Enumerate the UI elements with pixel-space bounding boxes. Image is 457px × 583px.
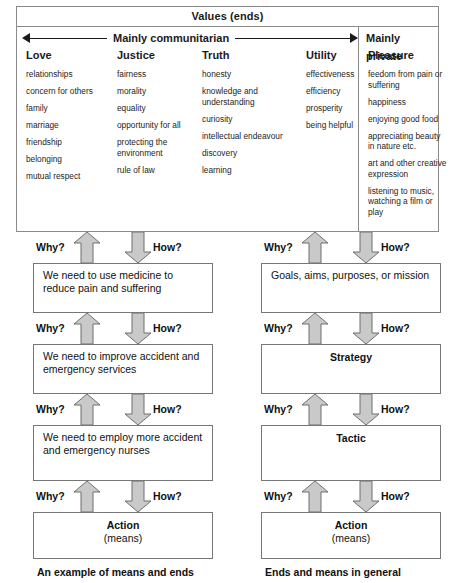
how-label: How?: [153, 313, 182, 344]
node-box-1: Goals, aims, purposes, or mission: [261, 263, 441, 313]
why-label: Why?: [36, 481, 65, 512]
column-heading-utility: Utility: [306, 49, 374, 61]
list-item: fairness: [117, 69, 199, 80]
connector-3: Why? How?: [20, 481, 232, 512]
list-item: feedom from pain or suffering: [368, 69, 448, 90]
list-item: enjoying good food: [368, 114, 448, 125]
list-item: discovery: [202, 148, 302, 159]
values-list-love: relationships concern for others family …: [26, 69, 111, 182]
values-column-pleasure: Pleasure feedom from pain or suffering h…: [368, 49, 448, 224]
right-chain: Why? How? Goals, aims, purposes, or miss…: [248, 232, 457, 583]
spectrum-arrow-label: Mainly communitarian: [107, 29, 235, 47]
list-item: knowledge and understanding: [202, 86, 302, 107]
how-label: How?: [153, 481, 182, 512]
connector-2: Why? How?: [248, 394, 457, 425]
list-item: appreciating beauty in nature etc.: [368, 131, 448, 152]
list-item: listening to music, watching a film or p…: [368, 186, 448, 218]
why-label: Why?: [264, 232, 293, 263]
action-title: Action: [271, 519, 431, 532]
list-item: protecting the environment: [117, 137, 199, 158]
list-item: curiosity: [202, 114, 302, 125]
list-item: prosperity: [306, 103, 374, 114]
list-item: marriage: [26, 120, 111, 131]
list-item: art and other creative expression: [368, 158, 448, 179]
column-heading-pleasure: Pleasure: [368, 49, 448, 61]
how-label: How?: [381, 394, 410, 425]
node-box-2: Strategy: [261, 344, 441, 394]
values-list-truth: honesty knowledge and understanding curi…: [202, 69, 302, 175]
node-box-action: Action (means): [33, 512, 213, 559]
list-item: being helpful: [306, 120, 374, 131]
list-item: happiness: [368, 97, 448, 108]
values-table-body: Mainly communitarian Mainly private Love…: [17, 27, 438, 232]
action-subtitle: (means): [271, 532, 431, 545]
list-item: relationships: [26, 69, 111, 80]
why-label: Why?: [36, 313, 65, 344]
list-item: belonging: [26, 154, 111, 165]
list-item: concern for others: [26, 86, 111, 97]
action-title: Action: [43, 519, 203, 532]
connector-2: Why? How?: [20, 394, 232, 425]
list-item: morality: [117, 86, 199, 97]
values-column-utility: Utility effectiveness efficiency prosper…: [306, 49, 374, 137]
means-ends-diagram: Why? How? We need to use medicine to red…: [0, 232, 457, 583]
list-item: honesty: [202, 69, 302, 80]
arrow-right-icon: [350, 33, 358, 43]
why-label: Why?: [36, 394, 65, 425]
why-label: Why?: [36, 232, 65, 263]
list-item: intellectual endeavour: [202, 131, 302, 142]
list-item: efficiency: [306, 86, 374, 97]
connector-3: Why? How?: [248, 481, 457, 512]
left-chain: Why? How? We need to use medicine to red…: [20, 232, 232, 583]
list-item: mutual respect: [26, 171, 111, 182]
why-label: Why?: [264, 313, 293, 344]
values-column-justice: Justice fairness morality equality oppor…: [117, 49, 199, 182]
how-label: How?: [153, 232, 182, 263]
how-label: How?: [381, 313, 410, 344]
values-table: Values (ends) Mainly communitarian Mainl…: [16, 6, 439, 232]
list-item: family: [26, 103, 111, 114]
node-box-3: Tactic: [261, 425, 441, 481]
how-label: How?: [381, 481, 410, 512]
list-item: learning: [202, 165, 302, 176]
caption-left: An example of means and ends: [37, 566, 194, 578]
connector-0: Why? How?: [20, 232, 232, 263]
list-item: opportunity for all: [117, 120, 199, 131]
node-box-3: We need to employ more accident and emer…: [33, 425, 213, 481]
caption-right: Ends and means in general: [265, 566, 401, 578]
node-box-2: We need to improve accident and emergenc…: [33, 344, 213, 394]
values-list-justice: fairness morality equality opportunity f…: [117, 69, 199, 175]
connector-1: Why? How?: [248, 313, 457, 344]
node-box-action: Action (means): [261, 512, 441, 559]
values-list-pleasure: feedom from pain or suffering happiness …: [368, 69, 448, 217]
spectrum-arrow: Mainly communitarian Mainly private: [17, 29, 438, 47]
why-label: Why?: [264, 481, 293, 512]
values-column-truth: Truth honesty knowledge and understandin…: [202, 49, 302, 182]
arrow-left-icon: [22, 33, 30, 43]
list-item: effectiveness: [306, 69, 374, 80]
values-table-title: Values (ends): [17, 7, 438, 27]
action-subtitle: (means): [43, 532, 203, 545]
why-label: Why?: [264, 394, 293, 425]
node-box-1: We need to use medicine to reduce pain a…: [33, 263, 213, 313]
values-list-utility: effectiveness efficiency prosperity bein…: [306, 69, 374, 131]
column-heading-justice: Justice: [117, 49, 199, 61]
values-columns: Love relationships concern for others fa…: [17, 49, 438, 232]
values-column-love: Love relationships concern for others fa…: [26, 49, 111, 188]
how-label: How?: [153, 394, 182, 425]
connector-1: Why? How?: [20, 313, 232, 344]
column-heading-love: Love: [26, 49, 111, 61]
column-heading-truth: Truth: [202, 49, 302, 61]
list-item: equality: [117, 103, 199, 114]
how-label: How?: [381, 232, 410, 263]
list-item: rule of law: [117, 165, 199, 176]
connector-0: Why? How?: [248, 232, 457, 263]
list-item: friendship: [26, 137, 111, 148]
